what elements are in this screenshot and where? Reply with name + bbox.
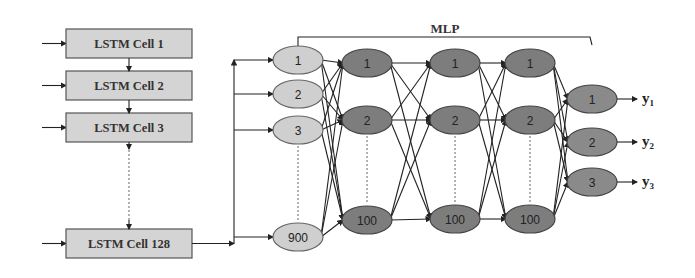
- neuron-node: 3: [567, 168, 617, 196]
- neuron-node: 1: [273, 46, 323, 74]
- lstm-to-mlp-bus: [192, 60, 273, 244]
- neuron-node: 100: [342, 206, 392, 234]
- neuron-node: 1: [505, 49, 555, 77]
- lstm-cell-label: LSTM Cell 128: [88, 237, 170, 251]
- neuron-label: 3: [295, 124, 302, 138]
- neuron-label: 2: [452, 114, 459, 128]
- neuron-label: 1: [364, 57, 371, 71]
- neuron-node: 900: [273, 223, 323, 251]
- neuron-label: 900: [288, 231, 308, 245]
- lstm-cell: LSTM Cell 2: [42, 71, 192, 100]
- neuron-label: 100: [520, 213, 540, 227]
- neuron-label: 100: [357, 214, 377, 228]
- lstm-cell: LSTM Cell 128: [42, 229, 192, 258]
- neuron-node: 100: [430, 205, 480, 233]
- neuron-label: 100: [445, 213, 465, 227]
- neuron-label: 2: [364, 114, 371, 128]
- output-label: y1: [642, 90, 655, 108]
- neuron-node: 3: [273, 116, 323, 144]
- neuron-label: 3: [589, 176, 596, 190]
- mlp-label: MLP: [431, 21, 460, 36]
- neuron-label: 1: [295, 54, 302, 68]
- output-labels: y1y2y3: [617, 90, 655, 191]
- neuron-node: 2: [342, 106, 392, 134]
- lstm-cell-label: LSTM Cell 1: [94, 37, 163, 51]
- neuron-label: 1: [527, 57, 534, 71]
- output-label: y3: [642, 173, 655, 191]
- lstm-mlp-diagram: LSTM Cell 1LSTM Cell 2LSTM Cell 3LSTM Ce…: [0, 0, 695, 278]
- lstm-stack: LSTM Cell 1LSTM Cell 2LSTM Cell 3LSTM Ce…: [42, 29, 192, 258]
- lstm-cell: LSTM Cell 3: [42, 113, 192, 142]
- neuron-node: 1: [430, 49, 480, 77]
- mlp-bracket: MLP: [298, 21, 592, 47]
- lstm-cell-label: LSTM Cell 2: [94, 79, 163, 93]
- neuron-node: 1: [567, 85, 617, 113]
- neuron-node: 2: [505, 106, 555, 134]
- lstm-cell: LSTM Cell 1: [42, 29, 192, 58]
- neuron-node: 1: [342, 49, 392, 77]
- neuron-node: 2: [430, 106, 480, 134]
- neuron-label: 1: [452, 57, 459, 71]
- neuron-node: 2: [273, 80, 323, 108]
- neuron-label: 1: [589, 93, 596, 107]
- lstm-cell-label: LSTM Cell 3: [94, 121, 163, 135]
- neuron-label: 2: [295, 88, 302, 102]
- neuron-label: 2: [527, 114, 534, 128]
- neuron-node: 100: [505, 205, 555, 233]
- output-label: y2: [642, 133, 655, 151]
- neuron-label: 2: [589, 136, 596, 150]
- neuron-node: 2: [567, 128, 617, 156]
